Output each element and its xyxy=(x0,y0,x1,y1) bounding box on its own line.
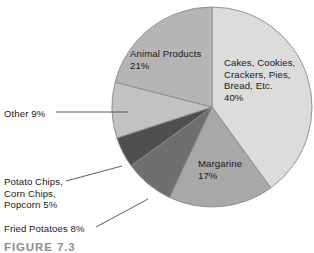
leader-line-fried-potatoes xyxy=(96,199,148,227)
slice-label-other: Other 9% xyxy=(4,108,45,120)
figure-caption: FIGURE 7.3 xyxy=(4,241,76,253)
pie-chart xyxy=(0,0,314,253)
leader-line-potato-chips-corn-chips-popcorn xyxy=(66,166,122,181)
slice-label-margarine: Margarine 17% xyxy=(198,158,242,181)
slice-label-animal-products: Animal Products 21% xyxy=(130,48,201,71)
slice-label-cakes-cookies-crackers-pies-bread: Cakes, Cookies, Crackers, Pies, Bread, E… xyxy=(224,57,295,103)
slice-label-potato-chips-corn-chips-popcorn: Potato Chips, Corn Chips, Popcorn 5% xyxy=(4,176,63,211)
figure-container: Cakes, Cookies, Crackers, Pies, Bread, E… xyxy=(0,0,314,253)
slice-label-fried-potatoes: Fried Potatoes 8% xyxy=(4,223,85,235)
